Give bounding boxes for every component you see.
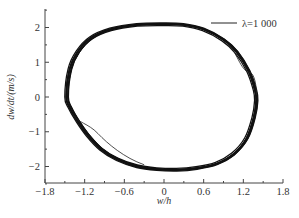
- x-tick-label: 1.2: [237, 186, 250, 197]
- orbit-deviation: [73, 114, 144, 164]
- x-tick-label: −1.8: [35, 186, 54, 197]
- x-tick-label: −0.6: [115, 186, 134, 197]
- limit-cycle-orbits: [65, 23, 258, 171]
- x-tick-label: 0.6: [197, 186, 210, 197]
- x-tick-label: 1.8: [276, 186, 289, 197]
- y-tick-label: −1: [29, 126, 40, 137]
- y-tick-label: −2: [29, 161, 40, 172]
- y-tick-label: 0: [35, 92, 40, 103]
- y-tick-label: 2: [35, 22, 40, 33]
- y-ticks: −2−1012: [29, 10, 49, 184]
- legend: λ=1 000: [211, 18, 277, 29]
- phase-plot: −1.8−1.2−0.600.61.21.8 −2−1012 w/h dw/dt…: [0, 0, 299, 218]
- x-tick-label: −1.2: [75, 186, 94, 197]
- x-axis-title: w/h: [157, 195, 171, 206]
- axes: [45, 9, 283, 183]
- legend-label: λ=1 000: [242, 18, 277, 29]
- y-axis-title: dw/dt/(m/s): [5, 74, 17, 120]
- y-tick-label: 1: [35, 57, 40, 68]
